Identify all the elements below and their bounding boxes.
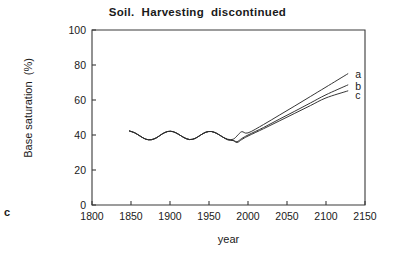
curve-a bbox=[129, 74, 347, 140]
axes-frame bbox=[92, 30, 365, 205]
data-curves bbox=[129, 74, 347, 143]
plot-area bbox=[0, 0, 395, 260]
axis-ticks bbox=[92, 30, 365, 205]
figure-panel: Soil. Harvesting discontinued Base satur… bbox=[0, 0, 395, 260]
